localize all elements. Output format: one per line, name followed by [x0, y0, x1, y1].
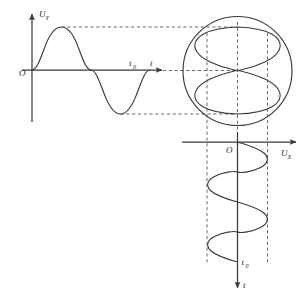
ux-origin-label: O — [226, 145, 233, 155]
panel-uy-vs-t: U Y O t 0 t — [19, 9, 162, 122]
ux-axis-label-subscript: X — [287, 154, 292, 160]
ux-tick-t0-subscript: 0 — [246, 263, 249, 269]
ux-tick-t0-label: t — [242, 257, 245, 267]
panel-ux-vs-t: O U X t 0 t — [182, 132, 296, 290]
uy-origin-label: O — [19, 68, 26, 78]
figure-canvas: U Y O t 0 t — [0, 0, 306, 296]
uy-tick-t0-subscript: 0 — [133, 64, 136, 70]
uy-axis-label-subscript: Y — [46, 15, 50, 21]
lissajous-figure: U Y O t 0 t — [0, 0, 306, 296]
uy-axis-t-label: t — [150, 58, 153, 68]
uy-tick-t0-label: t — [129, 58, 132, 68]
ux-axis-t-label: t — [243, 280, 246, 290]
